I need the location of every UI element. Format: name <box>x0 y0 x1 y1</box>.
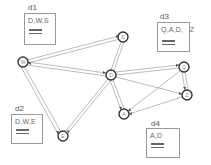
edge-d-a <box>110 80 121 110</box>
svg-text:D: D <box>109 72 113 78</box>
edge-q-d <box>116 68 179 75</box>
edge-d-q <box>116 65 179 72</box>
graph-diagram: W S D Q Z A E <box>0 0 211 165</box>
edge-d-z <box>116 77 182 94</box>
node-z[interactable]: Z <box>182 90 192 100</box>
doc-d1-content: D,W,S <box>28 17 49 25</box>
node-s[interactable]: S <box>118 32 128 42</box>
svg-text:Q: Q <box>182 64 186 70</box>
edge-z-a <box>129 97 182 114</box>
edge-d-e <box>65 79 108 132</box>
doc-d3[interactable]: Q,A,D, Z <box>157 22 190 52</box>
doc-d3-label: d3 <box>160 13 169 21</box>
edge-a-d <box>113 80 124 109</box>
doc-d3-content: Q,A,D, Z <box>161 26 189 34</box>
node-a[interactable]: A <box>119 109 129 119</box>
edge-e-d <box>68 80 111 133</box>
node-d[interactable]: D <box>106 70 116 80</box>
doc-lines-icon <box>29 29 42 36</box>
doc-lines-icon <box>162 40 175 47</box>
doc-lines-icon <box>151 143 164 150</box>
doc-d2-content: D,W,E <box>15 118 36 126</box>
doc-d4-label: d4 <box>151 120 160 128</box>
edge-w-d <box>28 62 106 73</box>
edge-s-d <box>111 42 121 70</box>
node-e[interactable]: E <box>58 131 68 141</box>
edge-d-s <box>114 42 124 70</box>
edge-d-w <box>27 65 106 76</box>
svg-text:Z: Z <box>185 92 188 98</box>
doc-d2[interactable]: D,W,E <box>11 114 43 144</box>
doc-d4[interactable]: A,D <box>146 128 180 158</box>
doc-d2-label: d2 <box>15 105 24 113</box>
svg-text:W: W <box>21 59 26 65</box>
doc-d1-label: d1 <box>28 4 37 12</box>
edge-q-a <box>128 71 180 111</box>
doc-d1[interactable]: D,W,S <box>24 13 56 45</box>
doc-lines-icon <box>16 129 29 136</box>
node-q[interactable]: Q <box>179 62 189 72</box>
doc-d4-content: A,D <box>150 132 162 140</box>
node-w[interactable]: W <box>18 57 28 67</box>
